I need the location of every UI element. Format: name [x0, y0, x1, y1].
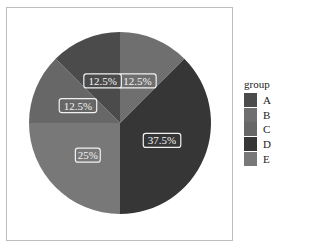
pie-slice-e: [29, 123, 120, 214]
legend-item-b: B: [244, 108, 271, 123]
legend-item-e: E: [244, 151, 271, 166]
legend: group A B C D E: [244, 78, 271, 166]
legend-swatch-b: [244, 108, 257, 122]
slice-label-d: 37.5%: [148, 134, 176, 146]
legend-swatch-c: [244, 122, 257, 136]
legend-label-d: D: [263, 138, 271, 150]
legend-label-b: B: [263, 109, 270, 121]
legend-item-c: C: [244, 122, 271, 137]
legend-label-e: E: [263, 153, 270, 165]
slice-label-e: 25%: [78, 149, 98, 161]
legend-title: group: [244, 78, 271, 90]
slice-label-b: 12.5%: [123, 75, 151, 87]
legend-label-a: A: [263, 94, 271, 106]
legend-swatch-d: [244, 137, 257, 151]
legend-swatch-e: [244, 152, 257, 166]
slice-label-c: 12.5%: [64, 100, 92, 112]
legend-item-d: D: [244, 137, 271, 152]
legend-swatch-a: [244, 93, 257, 107]
legend-item-a: A: [244, 93, 271, 108]
legend-label-c: C: [263, 123, 270, 135]
slice-label-a: 12.5%: [88, 75, 116, 87]
